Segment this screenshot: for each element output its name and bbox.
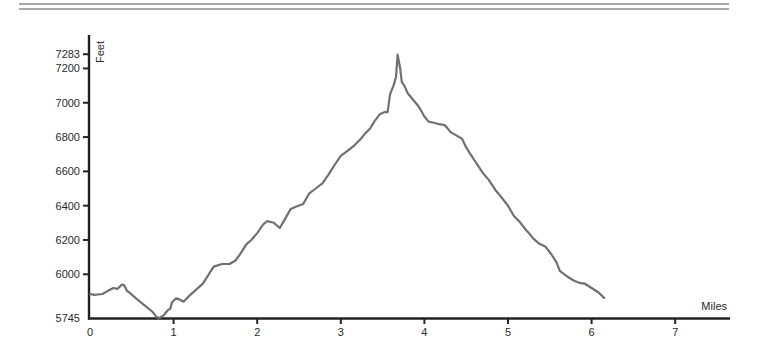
y-tick-label: 7000 — [56, 97, 80, 109]
x-tick-label: 5 — [505, 326, 511, 338]
y-tick-label: 6800 — [56, 131, 80, 143]
y-tick-label: 6600 — [56, 165, 80, 177]
x-tick-label: 4 — [421, 326, 427, 338]
y-tick-label: 5745 — [56, 312, 80, 324]
x-axis-title: Miles — [701, 300, 727, 312]
x-tick-label: 7 — [672, 326, 678, 338]
x-tick-label: 0 — [87, 326, 93, 338]
y-axis: 574560006200640066006800700072007283 — [56, 35, 89, 324]
y-tick-label: 6200 — [56, 234, 80, 246]
y-tick-label: 7283 — [56, 48, 80, 60]
elevation-profile-chart: 574560006200640066006800700072007283 012… — [0, 0, 770, 364]
x-axis: 01234567 — [87, 318, 730, 338]
x-tick-label: 3 — [338, 326, 344, 338]
elevation-line — [90, 55, 604, 318]
y-tick-label: 6400 — [56, 200, 80, 212]
x-tick-label: 6 — [589, 326, 595, 338]
y-axis-title: Feet — [94, 41, 106, 63]
x-tick-label: 1 — [171, 326, 177, 338]
y-tick-label: 7200 — [56, 62, 80, 74]
x-tick-label: 2 — [254, 326, 260, 338]
y-tick-label: 6000 — [56, 268, 80, 280]
